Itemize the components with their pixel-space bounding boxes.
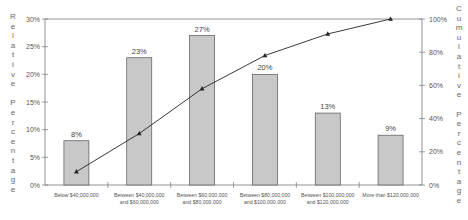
x-category-label: and $60,000,000	[120, 199, 159, 205]
x-category-label: More than $120,000,000	[362, 192, 419, 198]
bar	[252, 74, 277, 185]
bar	[64, 141, 89, 185]
bar	[315, 113, 340, 185]
x-category-label: and $100,000,000	[244, 199, 286, 205]
x-category-label: Between $40,000,000	[114, 192, 165, 198]
bar	[190, 36, 215, 185]
left-tick-label: 0%	[30, 182, 40, 189]
bar-data-label: 20%	[257, 63, 272, 72]
x-category-label: Below $40,000,000	[54, 192, 99, 198]
left-tick-label: 10%	[26, 126, 40, 133]
bar-data-label: 27%	[195, 25, 210, 34]
pareto-chart: 0%5%10%15%20%25%30%0%20%40%60%80%100%8%2…	[0, 0, 468, 220]
left-tick-label: 25%	[26, 43, 40, 50]
right-tick-label: 40%	[429, 115, 443, 122]
bar	[127, 58, 152, 185]
right-tick-label: 20%	[429, 148, 443, 155]
bar-data-label: 8%	[71, 130, 82, 139]
x-category-label: and $80,000,000	[183, 199, 222, 205]
bar-data-label: 9%	[385, 124, 396, 133]
bar-data-label: 13%	[320, 102, 335, 111]
bar	[378, 135, 403, 185]
left-tick-label: 20%	[26, 71, 40, 78]
x-category-label: Between $100,000,000	[301, 192, 354, 198]
right-tick-label: 80%	[429, 49, 443, 56]
cumulative-line	[76, 19, 390, 172]
bar-data-label: 23%	[132, 47, 147, 56]
left-tick-label: 5%	[30, 154, 40, 161]
left-tick-label: 15%	[26, 99, 40, 106]
x-category-label: Between $60,000,000	[177, 192, 228, 198]
x-category-label: and $120,000,000	[307, 199, 349, 205]
right-tick-label: 100%	[429, 16, 447, 23]
left-tick-label: 30%	[26, 16, 40, 23]
triangle-marker-icon	[388, 16, 393, 20]
right-tick-label: 60%	[429, 82, 443, 89]
x-category-label: Between $80,000,000	[240, 192, 291, 198]
right-tick-label: 0%	[429, 182, 439, 189]
